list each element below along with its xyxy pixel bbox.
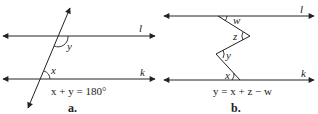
panel-a-line-k-label: k xyxy=(140,67,145,78)
panel-a-equation: x + y = 180° xyxy=(51,86,106,97)
panel-a-caption: a. xyxy=(68,102,77,114)
panel-a-angle-y-label: y xyxy=(67,41,72,52)
panel-b-angle-z-arc xyxy=(242,32,243,40)
panel-b-line-k-label: k xyxy=(301,68,306,79)
parallel-lines-angle-diagram: l k y x x + y = 180° a. l k w z y x y = … xyxy=(0,0,318,114)
panel-b-line-l-label: l xyxy=(300,4,303,15)
panel-b-angle-w-arc xyxy=(225,16,227,21)
panel-b-angle-w-label: w xyxy=(233,15,240,26)
panel-b-angle-z-label: z xyxy=(233,31,237,42)
panel-a-line-l-label: l xyxy=(139,23,142,34)
panel-b-angle-x-label: x xyxy=(225,70,230,81)
panel-a-angle-x-label: x xyxy=(51,65,56,76)
panel-b-equation: y = x + z − w xyxy=(213,86,272,97)
panel-b-caption: b. xyxy=(231,102,241,114)
panel-b-angle-y-label: y xyxy=(226,50,231,61)
panel-b-angle-x-arc xyxy=(232,73,234,80)
panel-b-angle-y-arc xyxy=(223,50,224,58)
panel-a-angle-x-arc xyxy=(44,71,50,79)
